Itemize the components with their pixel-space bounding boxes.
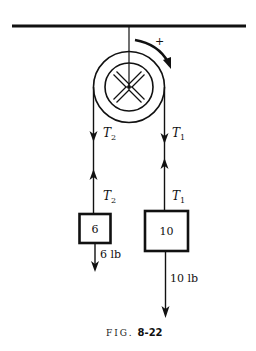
weight-label-left: 6 lb <box>100 248 121 261</box>
weight-label-right: 10 lb <box>170 272 198 285</box>
tension-label-left-lower: T2 <box>103 189 116 205</box>
mass-10: 10 <box>145 211 188 251</box>
tension-label-right-upper: T1 <box>172 126 185 142</box>
pulley-axle <box>127 85 131 89</box>
mass-10-label: 10 <box>160 225 174 238</box>
tension-label-right-lower: T1 <box>172 189 185 205</box>
figure-caption: FIG.8-22 <box>106 327 163 338</box>
pulley-diagram: + T2 T2 T1 T1 6 6 lb 10 10 lb FIG.8-22 <box>0 0 256 351</box>
rotation-sign: + <box>155 35 164 48</box>
tension-label-left-upper: T2 <box>103 126 116 142</box>
mass-6-label: 6 <box>92 223 99 236</box>
mass-6: 6 <box>80 214 111 243</box>
rotation-direction: + <box>135 35 171 69</box>
